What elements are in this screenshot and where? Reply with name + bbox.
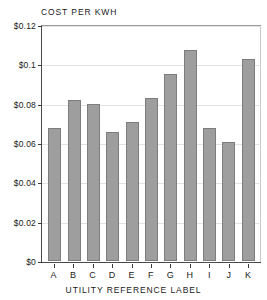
bar-b [68, 100, 81, 261]
y-tick-mark [38, 65, 42, 66]
x-tick-label: D [102, 270, 121, 280]
x-tick-mark [151, 264, 152, 268]
x-tick-label: G [161, 270, 180, 280]
x-tick-mark [54, 264, 55, 268]
bar-slot [200, 26, 219, 261]
x-tick-slot: K [239, 264, 258, 280]
bar-k [242, 59, 255, 261]
x-tick-slot: H [180, 264, 199, 280]
y-tick-label: $0.06 [14, 139, 36, 149]
y-tick-mark [38, 262, 42, 263]
x-tick-slot: I [200, 264, 219, 280]
bar-slot [239, 26, 258, 261]
x-tick-slot: C [83, 264, 102, 280]
x-tick-label: J [219, 270, 238, 280]
x-tick-slot: B [63, 264, 82, 280]
x-tick-slot: G [161, 264, 180, 280]
x-axis-ticks: ABCDEFGHIJK [42, 264, 260, 280]
bar-i [203, 128, 216, 261]
x-tick-mark [209, 264, 210, 268]
x-tick-label: C [83, 270, 102, 280]
x-tick-label: K [239, 270, 258, 280]
y-tick-mark [38, 223, 42, 224]
bar-j [222, 142, 235, 261]
x-tick-mark [190, 264, 191, 268]
y-tick-mark [38, 183, 42, 184]
x-tick-slot: A [44, 264, 63, 280]
bar-slot [84, 26, 103, 261]
bar-slot [45, 26, 64, 261]
bar-slot [142, 26, 161, 261]
bar-f [145, 98, 158, 261]
bar-slot [161, 26, 180, 261]
bar-slot [181, 26, 200, 261]
x-tick-mark [132, 264, 133, 268]
bar-chart-figure: COST PER KWH $0$0.02$0.04$0.06$0.08$0.1$… [0, 0, 267, 300]
x-tick-label: I [200, 270, 219, 280]
y-tick-label: $0.02 [14, 218, 36, 228]
bar-slot [219, 26, 238, 261]
x-axis-title: UTILITY REFERENCE LABEL [0, 285, 267, 295]
bar-e [126, 122, 139, 261]
x-tick-slot: F [141, 264, 160, 280]
y-tick-label: $0.04 [14, 178, 36, 188]
y-tick-mark [38, 144, 42, 145]
chart-title: COST PER KWH [41, 7, 117, 17]
bar-g [164, 74, 177, 261]
x-tick-label: B [63, 270, 82, 280]
bar-slot [103, 26, 122, 261]
x-tick-label: F [141, 270, 160, 280]
x-tick-slot: D [102, 264, 121, 280]
y-tick-label: $0 [26, 257, 36, 267]
x-tick-mark [229, 264, 230, 268]
bar-slot [64, 26, 83, 261]
x-tick-mark [73, 264, 74, 268]
x-tick-mark [112, 264, 113, 268]
y-tick-label: $0.08 [14, 100, 36, 110]
bar-slot [122, 26, 141, 261]
y-tick-mark [38, 26, 42, 27]
y-tick-mark [38, 105, 42, 106]
x-tick-slot: J [219, 264, 238, 280]
x-tick-mark [248, 264, 249, 268]
x-tick-slot: E [122, 264, 141, 280]
y-tick-label: $0.1 [19, 60, 36, 70]
bar-c [87, 104, 100, 261]
y-tick-label: $0.12 [14, 21, 36, 31]
bar-d [106, 132, 119, 261]
bar-h [184, 50, 197, 262]
x-tick-label: E [122, 270, 141, 280]
bars-layer [43, 26, 260, 261]
bar-a [48, 128, 61, 261]
plot-area: $0$0.02$0.04$0.06$0.08$0.1$0.12 [41, 25, 261, 263]
x-tick-label: A [44, 270, 63, 280]
x-tick-mark [93, 264, 94, 268]
x-tick-mark [170, 264, 171, 268]
x-tick-label: H [180, 270, 199, 280]
